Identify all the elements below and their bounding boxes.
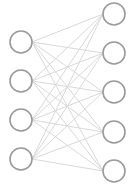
output-node-4 (103, 121, 125, 143)
input-node-4 (10, 148, 32, 170)
output-node-3 (103, 81, 125, 103)
edge-input1-output0 (32, 14, 103, 81)
edge-input3-output2 (32, 92, 103, 159)
edge-input0-output0 (32, 14, 103, 42)
input-node-3 (10, 109, 32, 131)
network-svg (0, 0, 132, 189)
edge-input3-output0 (32, 14, 103, 159)
edge-input3-output4 (32, 159, 103, 171)
neural-network-diagram (0, 0, 132, 189)
edge-input3-output3 (32, 132, 103, 159)
output-node-1 (103, 3, 125, 25)
output-node-2 (103, 42, 125, 64)
edges (32, 14, 103, 171)
input-node-2 (10, 70, 32, 92)
output-node-5 (103, 160, 125, 182)
edge-input2-output0 (32, 14, 103, 120)
edge-input3-output1 (32, 53, 103, 159)
nodes (10, 3, 125, 182)
input-node-1 (10, 31, 32, 53)
